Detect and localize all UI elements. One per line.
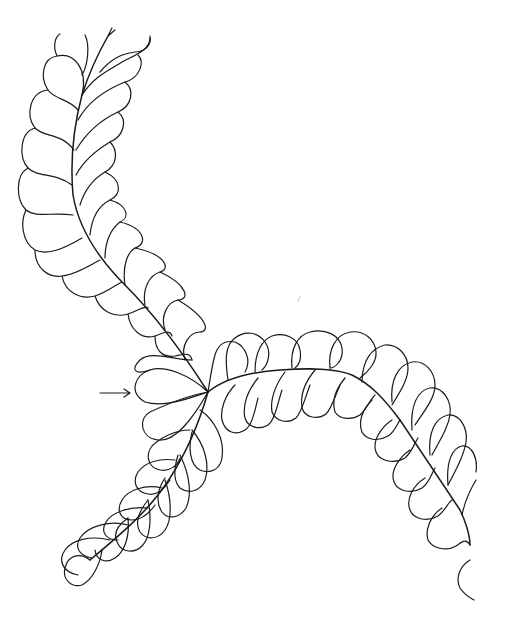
lower-feather bbox=[62, 392, 223, 586]
heart-junction bbox=[135, 356, 208, 441]
right-feather bbox=[208, 331, 476, 600]
direction-arrow bbox=[100, 389, 130, 397]
feather-drawing bbox=[0, 0, 506, 636]
upper-feather bbox=[18, 28, 208, 392]
faint-mark bbox=[298, 296, 300, 302]
